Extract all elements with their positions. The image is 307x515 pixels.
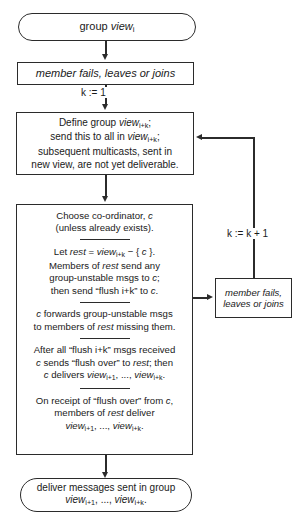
define-line-2: send this to all in viewi+k; <box>50 131 159 145</box>
divider-3 <box>80 338 130 339</box>
node-deliver-messages-end: deliver messages sent in group viewi+1, … <box>20 478 192 512</box>
connector-loop-horizontal <box>202 137 255 139</box>
main-b3-line-2: to members of rest missing them. <box>34 321 176 332</box>
edge-label-increment-k: k := k + 1 <box>225 228 270 239</box>
main-b4-line-2: c sends “flush over” to rest; then <box>36 357 173 368</box>
main-block-forward-unstable: c forwards group-unstable msgs to member… <box>20 308 189 333</box>
main-b3-line-1: c forwards group-unstable msgs <box>36 308 173 319</box>
main-b5-line-3: viewi+1, ..., viewi+k. <box>65 420 143 433</box>
connector-start-to-event <box>105 41 107 55</box>
arrowhead-event-to-define <box>102 104 108 110</box>
connector-loop-vertical <box>253 137 255 278</box>
main-b2-line-3: group-unstable msgs to c; <box>49 272 159 283</box>
divider-4 <box>80 388 130 389</box>
event-node-right-line-1: member fails, <box>225 287 282 298</box>
main-b5-line-2: members of rest deliver <box>54 407 154 418</box>
end-line-1: deliver messages sent in group <box>37 482 175 494</box>
main-b4-line-1: After all “flush i+k” msgs received <box>34 344 176 355</box>
main-block-choose-coordinator: Choose co-ordinator, c (unless already e… <box>20 209 189 234</box>
start-node-label: group viewi <box>80 20 135 35</box>
main-block-rest-definition: Let rest = viewi+k − { c }. Members of r… <box>20 245 189 297</box>
connector-main-to-right-event <box>193 297 208 299</box>
node-member-fails-right: member fails, leaves or joins <box>215 278 292 318</box>
define-line-1: Define group viewi+k; <box>59 117 151 131</box>
define-line-4: new view, are not yet deliverable. <box>31 159 178 171</box>
flowchart-canvas: group viewi member fails, leaves or join… <box>0 0 307 515</box>
arrowhead-start-to-event <box>102 54 108 60</box>
main-b4-line-3: c delivers viewi+1, ..., viewi+k. <box>44 369 165 382</box>
event-node-right-line-2: leaves or joins <box>223 298 284 309</box>
main-b2-line-4: then send “flush i+k” to c. <box>51 285 158 296</box>
node-group-view-start: group viewi <box>18 13 196 41</box>
node-coordinator-flush-process: Choose co-ordinator, c (unless already e… <box>16 204 193 455</box>
define-line-3: subsequent multicasts, sent in <box>38 146 172 158</box>
main-b1-line-1: Choose co-ordinator, c <box>56 210 153 221</box>
arrowhead-define-to-main <box>102 196 108 202</box>
node-member-fails-top: member fails, leaves or joins <box>17 62 194 85</box>
main-b1-line-2: (unless already exists). <box>55 222 153 233</box>
divider-2 <box>80 302 130 303</box>
arrowhead-loop-to-define <box>196 134 202 140</box>
event-node-top-label: member fails, leaves or joins <box>36 67 175 80</box>
node-define-group-view: Define group viewi+k; send this to all i… <box>16 112 194 175</box>
edge-label-init-k: k := 1 <box>79 87 108 98</box>
main-block-rest-delivers: On receipt of “flush over” from c, membe… <box>20 394 189 433</box>
divider-1 <box>80 239 130 240</box>
connector-main-to-end <box>105 455 107 473</box>
arrowhead-main-to-right-event <box>207 294 213 300</box>
connector-define-to-main <box>105 175 107 197</box>
end-line-2: viewi+1, ..., viewi+k. <box>65 494 146 508</box>
main-block-flush-over: After all “flush i+k” msgs received c se… <box>20 344 189 383</box>
main-b2-line-2: Members of rest send any <box>49 260 160 271</box>
main-b5-line-1: On receipt of “flush over” from c, <box>36 395 174 406</box>
main-b2-line-1: Let rest = viewi+k − { c }. <box>54 246 155 259</box>
